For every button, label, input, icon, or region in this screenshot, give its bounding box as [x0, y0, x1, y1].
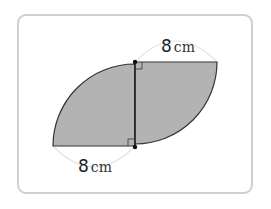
right-quarter-circle	[135, 62, 217, 144]
top-length-label: 8cm	[161, 36, 195, 56]
leaf-diagram: 8cm 8cm	[0, 0, 271, 209]
point-top	[133, 60, 137, 64]
left-quarter-circle	[53, 64, 135, 146]
point-bottom	[133, 145, 137, 149]
bottom-length-label: 8cm	[78, 156, 112, 176]
